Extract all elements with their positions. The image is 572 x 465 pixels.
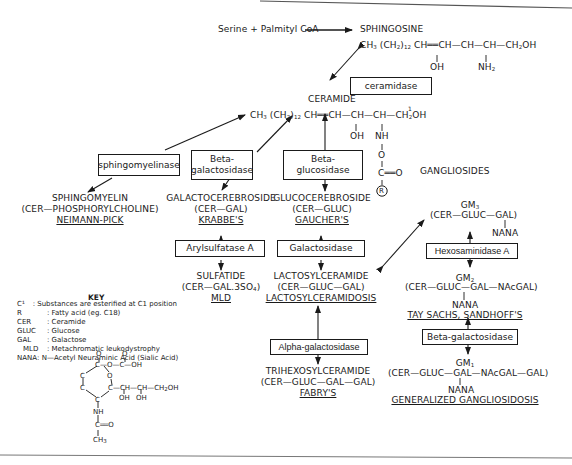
- sphingomyelin-name: SPHINGOMYELIN: [20, 193, 160, 204]
- lactosylceramide-name: LACTOSYLCERAMIDE: [262, 271, 380, 282]
- ceramide-o: O: [378, 150, 385, 161]
- disease-gauchers: GAUCHER'S: [270, 215, 374, 226]
- nana-ring-c3: C: [95, 396, 100, 405]
- ceramide-formula: CH3 (CH2)12 CH══CH—CH—CH—CH2OH: [250, 110, 426, 123]
- trihexosylceramide-name: TRIHEXOSYLCERAMIDE: [258, 366, 378, 377]
- glucocerebroside-name: GLUCOCEREBROSIDE: [270, 193, 374, 204]
- ceramide-nh: NH: [375, 131, 389, 142]
- disease-krabbes: KRABBE'S: [165, 215, 277, 226]
- ceramide-label: CERAMIDE: [308, 94, 356, 105]
- disease-generalized-gangliosidosis: GENERALIZED GANGLIOSIDOSIS: [390, 395, 540, 406]
- sulfatide-name: SULFATIDE: [165, 271, 277, 282]
- galactocerebroside-name: GALACTOCEREBROSIDE: [165, 193, 277, 204]
- key-entry: R: Fatty acid (eg. C18): [17, 309, 177, 318]
- enzyme-hexosaminidase-a: Hexosaminidase A: [426, 243, 518, 259]
- precursor-label: Serine + Palmityl CoA: [218, 24, 319, 35]
- sphingosine-label: SPHINGOSINE: [360, 24, 423, 35]
- key-entry: GAL: Galactose: [17, 336, 177, 345]
- trihexosylceramide-formula: (CER—GLUC—GAL—GAL): [258, 377, 378, 388]
- disease-lactosylceramidosis: LACTOSYLCERAMIDOSIS: [262, 293, 380, 304]
- enzyme-arylsulfatase-a: Arylsulfatase A: [175, 240, 265, 257]
- nana-c-o: O: [122, 350, 128, 359]
- sphingosine-formula: CH3 (CH2)12 CH══CH—CH—CH—CH2OH: [360, 40, 536, 53]
- nana-oh1: OH: [119, 394, 130, 403]
- enzyme-ceramidase: ceramidase: [350, 77, 432, 95]
- nana-cooh: C—O—C—OH: [95, 361, 142, 370]
- gm3-nana: NANA: [492, 228, 518, 239]
- gm1-formula: (CER—GLUC—GAL—NAcGAL—GAL): [388, 368, 548, 379]
- glucocerebroside-formula: (CER—GLUC): [270, 204, 374, 215]
- key-entry: GLUC: Glucose: [17, 327, 177, 336]
- enzyme-alpha-galactosidase: Alpha-galactosidase: [270, 339, 368, 355]
- nana-side-chain: C—CH—CH—CH2OH: [108, 384, 179, 394]
- sphingosine-nh2: NH2: [478, 62, 495, 75]
- enzyme-galactosidase: Galactosidase: [277, 240, 365, 257]
- disease-fabrys: FABRY'S: [258, 388, 378, 399]
- nana-o-top: O: [96, 350, 102, 359]
- ceramide-co: C══O: [378, 168, 403, 179]
- nana-co: C══O: [95, 421, 114, 430]
- sphingosine-oh: OH: [430, 62, 444, 73]
- disease-tay-sachs-sandhoffs: TAY SACHS, SANDHOFF'S: [405, 310, 525, 321]
- ceramide-r: R: [379, 186, 384, 197]
- nana-nh: NH: [93, 408, 104, 417]
- disease-neimann-pick: NEIMANN-PICK: [20, 215, 160, 226]
- disease-mld: MLD: [165, 293, 277, 304]
- ceramide-oh: OH: [350, 131, 364, 142]
- sphingomyelin-formula: (CER—PHOSPHORYLCHOLINE): [20, 204, 160, 215]
- key-entry: C¹: Substances are esterified at C1 posi…: [17, 300, 177, 309]
- enzyme-beta-glucosidase: Beta- glucosidase: [283, 150, 363, 180]
- gangliosides-heading: GANGLIOSIDES: [420, 166, 490, 177]
- key-entry: CER: Ceramide: [17, 318, 177, 327]
- enzyme-beta-galactosidase: Beta- galactosidase: [191, 150, 253, 180]
- enzyme-beta-galactosidase-gm1: Beta-galactosidase: [422, 329, 518, 345]
- gm2-formula: (CER—GLUC—GAL—NAcGAL): [405, 282, 538, 293]
- lactosylceramide-formula: (CER—GLUC—GAL): [262, 282, 380, 293]
- nana-ring-o: O: [107, 372, 113, 381]
- galactocerebroside-formula: (CER—GAL): [165, 204, 277, 215]
- gm3-formula: (CER—GLUC—GAL): [430, 210, 517, 221]
- nana-oh2: OH: [136, 394, 147, 403]
- enzyme-sphingomyelinase: sphingomyelinase: [98, 154, 180, 176]
- nana-ch3: CH3: [93, 436, 107, 446]
- nana-ring-c2: C: [80, 384, 85, 393]
- nana-ring-c1: C: [80, 372, 85, 381]
